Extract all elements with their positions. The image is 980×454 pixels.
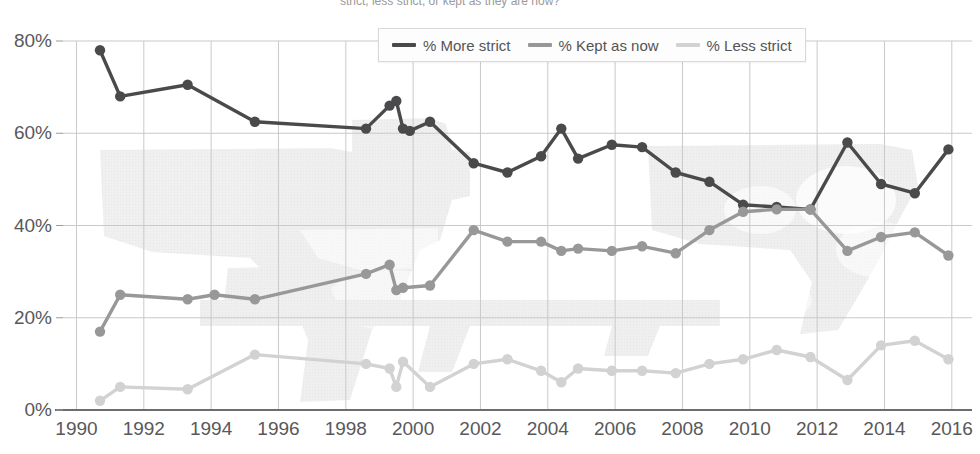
data-point: [391, 382, 401, 392]
data-point: [405, 126, 415, 136]
data-point: [398, 283, 408, 293]
y-tick-60: 60%: [0, 122, 52, 144]
data-point: [943, 144, 953, 154]
data-point: [607, 366, 617, 376]
data-point: [95, 326, 105, 336]
legend-item-less-strict[interactable]: % Less strict: [676, 37, 792, 54]
legend-label-more-strict: % More strict: [423, 37, 511, 54]
data-point: [425, 382, 435, 392]
data-point: [772, 204, 782, 214]
data-point: [943, 354, 953, 364]
legend-swatch-kept-as-now: [528, 43, 552, 47]
data-point: [842, 375, 852, 385]
data-point: [573, 363, 583, 373]
data-point: [738, 207, 748, 217]
data-point: [671, 368, 681, 378]
y-tick-40: 40%: [0, 215, 52, 237]
data-point: [398, 356, 408, 366]
data-point: [704, 359, 714, 369]
data-point: [704, 225, 714, 235]
chart-legend: % More strict % Kept as now % Less stric…: [378, 28, 806, 62]
legend-swatch-less-strict: [676, 43, 700, 47]
data-point: [910, 188, 920, 198]
data-point: [536, 236, 546, 246]
chart-plot-area: [0, 0, 980, 454]
data-point: [876, 340, 886, 350]
data-point: [115, 290, 125, 300]
data-point: [391, 96, 401, 106]
data-point: [95, 45, 105, 55]
data-point: [943, 250, 953, 260]
data-point: [502, 167, 512, 177]
data-point: [607, 246, 617, 256]
legend-label-less-strict: % Less strict: [707, 37, 792, 54]
data-point: [502, 354, 512, 364]
data-point: [536, 366, 546, 376]
data-point: [842, 137, 852, 147]
legend-label-kept-as-now: % Kept as now: [559, 37, 659, 54]
data-point: [671, 167, 681, 177]
data-point: [469, 359, 479, 369]
y-tick-80: 80%: [0, 30, 52, 52]
data-point: [842, 246, 852, 256]
data-point: [556, 377, 566, 387]
data-point: [469, 158, 479, 168]
grid-lines: [63, 41, 972, 410]
data-point: [384, 363, 394, 373]
data-point: [536, 151, 546, 161]
data-point: [671, 248, 681, 258]
x-tick-2016: 2016: [912, 418, 980, 440]
chart-container: strict, less strict, or kept as they are…: [0, 0, 980, 454]
data-point: [250, 294, 260, 304]
data-point: [704, 177, 714, 187]
data-point: [425, 117, 435, 127]
data-point: [573, 243, 583, 253]
series-2: [95, 336, 954, 406]
data-point: [361, 359, 371, 369]
data-point: [910, 227, 920, 237]
data-point: [502, 236, 512, 246]
data-point: [738, 354, 748, 364]
data-point: [115, 382, 125, 392]
data-point: [361, 269, 371, 279]
data-point: [637, 142, 647, 152]
data-point: [209, 290, 219, 300]
data-point: [876, 179, 886, 189]
data-point: [805, 352, 815, 362]
data-point: [182, 384, 192, 394]
data-point: [469, 225, 479, 235]
y-tick-20: 20%: [0, 307, 52, 329]
data-point: [182, 80, 192, 90]
data-point: [250, 117, 260, 127]
data-point: [425, 280, 435, 290]
legend-swatch-more-strict: [392, 43, 416, 47]
data-point: [910, 336, 920, 346]
data-point: [805, 204, 815, 214]
data-point: [361, 123, 371, 133]
data-point: [384, 260, 394, 270]
data-point: [95, 396, 105, 406]
data-point: [115, 91, 125, 101]
data-point: [637, 366, 647, 376]
data-point: [556, 123, 566, 133]
data-point: [637, 241, 647, 251]
legend-item-kept-as-now[interactable]: % Kept as now: [528, 37, 659, 54]
data-point: [182, 294, 192, 304]
data-point: [772, 345, 782, 355]
data-point: [607, 140, 617, 150]
data-point: [556, 246, 566, 256]
data-point: [250, 349, 260, 359]
data-point: [876, 232, 886, 242]
legend-item-more-strict[interactable]: % More strict: [392, 37, 511, 54]
data-point: [573, 153, 583, 163]
